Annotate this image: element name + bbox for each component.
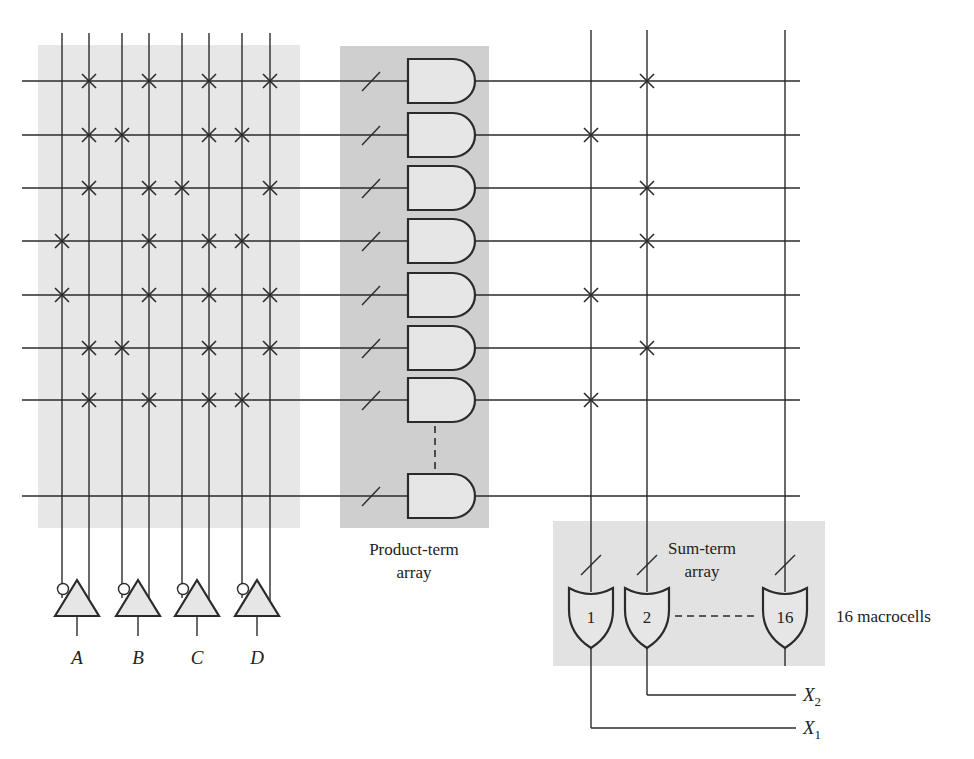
inverter-bubble-icon <box>119 584 130 595</box>
input-label-D: D <box>249 647 264 668</box>
input-label-C: C <box>191 647 204 668</box>
and-gate-icon <box>408 273 475 317</box>
product-term-label-2: array <box>397 563 432 582</box>
and-gate-icon <box>408 166 475 210</box>
and-gate-icon <box>408 59 475 103</box>
sum-term-label: Sum-term <box>668 539 736 558</box>
or-gate-label: 16 <box>777 608 794 627</box>
product-term-label: Product-term <box>369 540 459 559</box>
inverter-bubble-icon <box>178 584 189 595</box>
input-label-A: A <box>69 647 83 668</box>
sum-term-label-2: array <box>685 562 720 581</box>
and-gate-icon <box>408 219 475 263</box>
input-label-B: B <box>132 647 144 668</box>
and-gate-icon <box>408 474 475 518</box>
inverter-bubble-icon <box>58 584 69 595</box>
and-gate-icon <box>408 378 475 422</box>
input-array-shade <box>38 45 300 528</box>
and-gate-icon <box>408 326 475 370</box>
inverter-bubble-icon <box>238 584 249 595</box>
and-gate-icon <box>408 113 475 157</box>
output-label-X2: X2 <box>802 684 821 709</box>
macrocells-label: 16 macrocells <box>836 607 931 626</box>
or-gate-label: 1 <box>587 608 596 627</box>
diagram-canvas: Product-term array Sum-term array 16 mac… <box>0 0 974 759</box>
or-gate-label: 2 <box>643 608 652 627</box>
output-label-X1: X1 <box>802 717 821 742</box>
cpld-diagram: Product-term array Sum-term array 16 mac… <box>0 0 974 759</box>
